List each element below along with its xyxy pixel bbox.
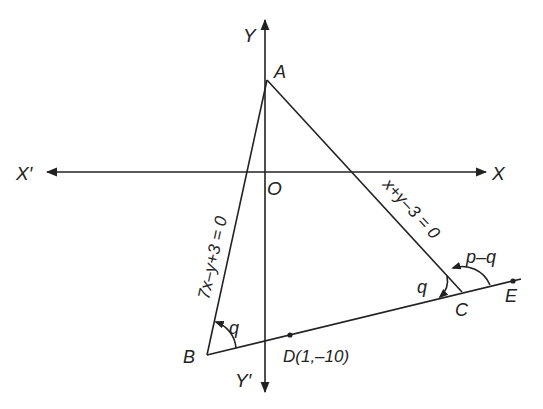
point-c-label: C	[455, 300, 469, 320]
line-ac-equation: x+y–3 = 0	[378, 174, 444, 243]
point-e-dot	[510, 278, 515, 283]
origin-label: O	[267, 178, 282, 199]
x-negative-label: X′	[15, 163, 34, 184]
angle-arc-c-inner	[440, 276, 447, 297]
x-positive-label: X	[491, 163, 506, 184]
angle-arc-c-outer	[453, 267, 490, 285]
point-d-label: D(1,–10)	[283, 347, 349, 366]
point-b-label: B	[183, 347, 195, 367]
angle-c-inner-label: q	[417, 277, 427, 297]
y-negative-label: Y′	[235, 370, 253, 391]
y-positive-label: Y	[243, 25, 257, 46]
point-d-dot	[287, 332, 292, 337]
point-e-label: E	[505, 286, 518, 306]
angle-b-label: q	[229, 318, 239, 338]
angle-c-outer-label: p–q	[465, 247, 496, 267]
line-ab-equation: 7x–y+3 = 0	[194, 214, 231, 301]
line-ac	[267, 80, 462, 292]
point-a-label: A	[273, 62, 286, 82]
line-be	[207, 279, 521, 355]
triangle-diagram: X′ X Y Y′ O A B C E D(1,–10) 7x–y+3 = 0 …	[0, 0, 543, 409]
